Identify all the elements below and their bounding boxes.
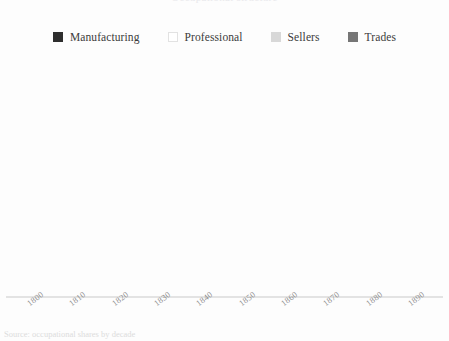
plot-area [19,62,432,295]
chart-caption-cropped: Source: occupational shares by decade [4,329,444,341]
